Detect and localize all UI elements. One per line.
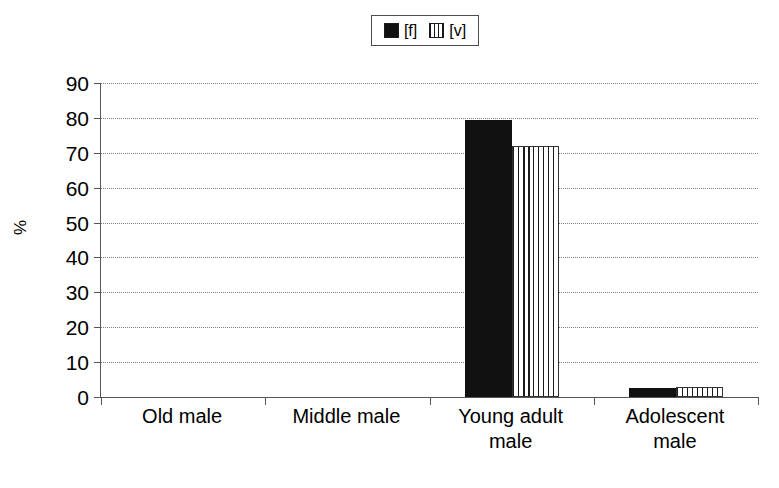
x-axis-label-line: male	[593, 429, 757, 454]
x-axis-label: Middle male	[264, 404, 428, 454]
y-tick-mark	[94, 118, 101, 119]
y-tick-mark	[94, 153, 101, 154]
y-tick-label: 80	[66, 107, 89, 128]
bar-f	[465, 120, 512, 397]
y-tick-label: 40	[66, 247, 89, 268]
bar-group	[101, 83, 265, 397]
bar-v	[676, 387, 723, 397]
chart-legend: [f] [v]	[371, 15, 479, 46]
bars-layer	[101, 83, 758, 397]
y-tick-label: 60	[66, 177, 89, 198]
y-tick-mark	[94, 327, 101, 328]
y-tick-label: 20	[66, 317, 89, 338]
y-tick-mark	[94, 292, 101, 293]
y-tick-mark	[94, 362, 101, 363]
y-tick-mark	[94, 83, 101, 84]
solid-black-swatch-icon	[384, 23, 399, 38]
bar-chart: [f] [v] % 9080706050403020100 Old maleMi…	[0, 0, 779, 488]
vertical-striped-swatch-icon	[429, 23, 444, 38]
bar-f	[629, 388, 676, 397]
x-axis-label-line: male	[429, 429, 593, 454]
y-tick-label: 30	[66, 282, 89, 303]
x-axis-label-line: Middle male	[264, 404, 428, 429]
legend-entry-v: [v]	[423, 23, 472, 39]
x-axis-label-line: Young adult	[429, 404, 593, 429]
y-tick-mark	[94, 397, 101, 398]
plot-area: 9080706050403020100	[100, 83, 758, 398]
bar-v	[512, 146, 559, 397]
y-axis-title: %	[12, 220, 29, 235]
legend-label-v: [v]	[449, 23, 466, 39]
legend-entry-f: [f]	[378, 23, 423, 39]
x-axis-labels: Old maleMiddle maleYoung adultmaleAdoles…	[100, 404, 757, 454]
legend-label-f: [f]	[404, 23, 417, 39]
x-axis-label-line: Adolescent	[593, 404, 757, 429]
y-tick-label: 0	[77, 387, 89, 408]
y-tick-mark	[94, 188, 101, 189]
y-tick-label: 10	[66, 352, 89, 373]
y-tick-mark	[94, 223, 101, 224]
y-tick-mark	[94, 257, 101, 258]
bar-group	[430, 83, 594, 397]
bar-group	[594, 83, 758, 397]
bar-group	[265, 83, 429, 397]
y-tick-label: 50	[66, 212, 89, 233]
y-tick-label: 90	[66, 73, 89, 94]
x-axis-label-line: Old male	[100, 404, 264, 429]
x-tick-mark	[758, 397, 759, 405]
x-axis-label: Adolescentmale	[593, 404, 757, 454]
x-axis-label: Young adultmale	[429, 404, 593, 454]
y-tick-label: 70	[66, 142, 89, 163]
x-axis-label: Old male	[100, 404, 264, 454]
